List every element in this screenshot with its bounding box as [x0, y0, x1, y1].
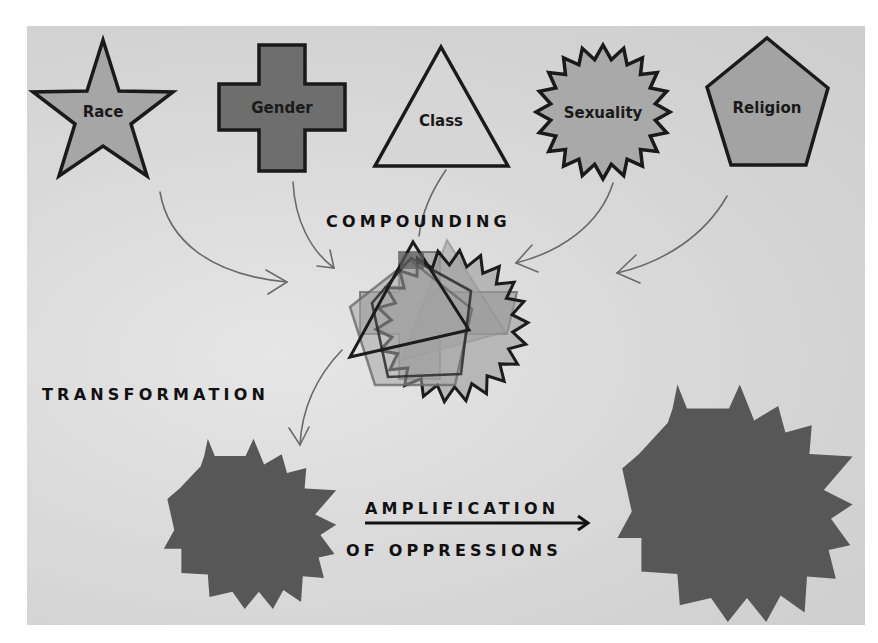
stage-label-of-oppressions: OF OPPRESSIONS: [346, 541, 562, 560]
category-sexuality: Sexuality: [536, 45, 670, 179]
category-gender: Gender: [219, 45, 345, 171]
stage-label-compounding: COMPOUNDING: [326, 212, 511, 231]
category-label-gender: Gender: [251, 99, 313, 117]
triangle-shape-icon: [375, 47, 508, 166]
category-class: Class: [375, 47, 508, 166]
stage-label-amplification: AMPLIFICATION: [365, 499, 559, 518]
amplified-oppression-shape: [617, 384, 852, 622]
category-label-class: Class: [419, 112, 463, 130]
arrow-sexuality-to-compound: [516, 183, 613, 272]
compound-shapes: [350, 240, 528, 402]
stage-label-transformation: TRANSFORMATION: [42, 385, 269, 404]
compound-cross-highlight: [400, 253, 424, 269]
intersectionality-diagram: Race Gender Class Sexuality Religion: [0, 0, 878, 643]
amplification-arrow: [365, 516, 588, 530]
transformed-oppression-shape: [164, 439, 336, 609]
category-label-race: Race: [83, 103, 124, 121]
category-label-religion: Religion: [733, 99, 802, 117]
category-label-sexuality: Sexuality: [564, 104, 643, 122]
category-race: Race: [33, 40, 173, 176]
category-religion: Religion: [707, 38, 828, 165]
arrow-transformation: [289, 350, 342, 445]
arrow-religion-to-compound: [617, 196, 727, 283]
arrow-race-to-compound: [160, 192, 287, 294]
